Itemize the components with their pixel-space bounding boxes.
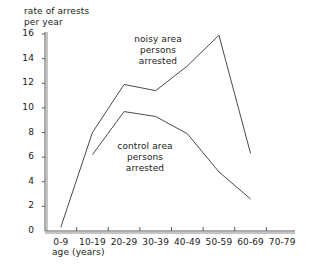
y-axis-tick-label: 8 [12,127,34,137]
x-axis-title: age (years) [52,247,105,257]
x-axis-tick-label: 70-79 [262,237,302,247]
arrest-rate-line-chart: rate of arrests per year age (years) noi… [0,0,312,269]
y-axis-tick-label: 16 [12,28,34,38]
series-label-noisy-area: noisy area persons arrested [125,34,191,67]
y-axis-tick-label: 4 [12,176,34,186]
y-axis-tick-label: 6 [12,151,34,161]
y-axis-tick-label: 12 [12,77,34,87]
y-axis-tick-label: 14 [12,53,34,63]
series-label-control-area: control area persons arrested [112,141,178,174]
y-axis-tick-label: 2 [12,200,34,210]
y-axis-tick-label: 0 [12,225,34,235]
y-axis-tick-label: 10 [12,102,34,112]
